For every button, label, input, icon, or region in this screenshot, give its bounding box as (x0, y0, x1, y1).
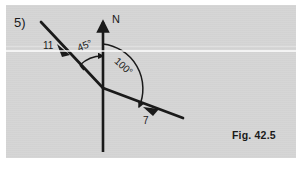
angle-100-arc (103, 44, 143, 107)
north-direction-label: N (112, 14, 120, 25)
item-number-label: 5) (14, 16, 26, 29)
figure-root: 5) N 11 7 45° 100° Fig. 42.5 (0, 0, 303, 171)
figure-caption: Fig. 42.5 (232, 130, 276, 141)
vector-11 (41, 22, 103, 88)
vector-7-magnitude-label: 7 (143, 116, 149, 126)
vector-11-shaft (41, 22, 103, 88)
angle-100-arc-path (103, 44, 143, 107)
angle-45-arc-path (80, 56, 103, 65)
vector-diagram-canvas (0, 0, 303, 171)
vector-11-magnitude-label: 11 (43, 41, 53, 51)
